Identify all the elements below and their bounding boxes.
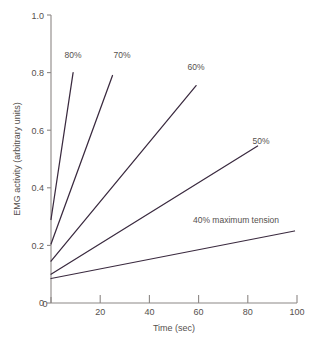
y-tick-label-0.4: 0.4 <box>31 183 44 193</box>
series-label-40: 40% maximum tension <box>193 215 279 225</box>
series-line-50 <box>51 146 258 274</box>
x-tick-label-100: 100 <box>289 307 304 317</box>
series-label-70: 70% <box>113 50 130 60</box>
chart-figure: 0 0.2 0.4 0.6 0.8 1.0 0 20 40 60 80 100 … <box>0 0 313 345</box>
y-tick-label-0.8: 0.8 <box>31 68 44 78</box>
series-label-80: 80% <box>64 50 81 60</box>
x-tick-label-60: 60 <box>194 307 204 317</box>
x-tick-label-40: 40 <box>144 307 154 317</box>
y-axis-title: EMG activity (arbitrary units) <box>12 102 22 216</box>
x-axis-ticks <box>51 295 297 303</box>
series-label-60: 60% <box>187 62 204 72</box>
x-axis-title: Time (sec) <box>153 323 195 333</box>
x-tick-label-20: 20 <box>95 307 105 317</box>
x-tick-label-0: 0 <box>42 299 47 309</box>
series-label-50: 50% <box>252 136 269 146</box>
axes <box>51 15 297 303</box>
emg-activity-line-chart: 0 0.2 0.4 0.6 0.8 1.0 0 20 40 60 80 100 … <box>0 0 313 345</box>
y-axis-ticks <box>47 15 51 303</box>
series-line-80 <box>51 73 73 220</box>
x-tick-label-80: 80 <box>243 307 253 317</box>
y-tick-label-0.2: 0.2 <box>31 241 44 251</box>
series-lines <box>51 73 295 279</box>
series-line-40 <box>51 231 295 279</box>
x-axis-tick-labels: 0 20 40 60 80 100 <box>42 299 304 317</box>
series-line-60 <box>51 86 196 262</box>
y-tick-label-0.6: 0.6 <box>31 126 44 136</box>
y-axis-tick-labels: 0 0.2 0.4 0.6 0.8 1.0 <box>31 11 44 308</box>
y-tick-label-1.0: 1.0 <box>31 11 44 21</box>
